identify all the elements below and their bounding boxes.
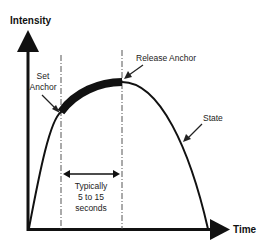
anchoring-intensity-diagram: Intensity Time Set Anchor Release Anchor… bbox=[0, 0, 263, 249]
duration-label-line1: Typically bbox=[75, 181, 108, 191]
set-anchor-annotation: Set Anchor bbox=[30, 71, 60, 113]
set-anchor-label-line1: Set bbox=[37, 71, 50, 81]
state-label: State bbox=[203, 113, 223, 123]
duration-annotation: Typically 5 to 15 seconds bbox=[63, 170, 120, 213]
set-anchor-pointer bbox=[42, 95, 56, 109]
set-anchor-label-line2: Anchor bbox=[30, 82, 57, 92]
y-axis: Intensity bbox=[10, 15, 52, 231]
x-axis-arrowhead-icon bbox=[210, 219, 230, 240]
state-curve bbox=[29, 82, 208, 229]
duration-label-line2: 5 to 15 bbox=[78, 192, 104, 202]
duration-right-arrowhead-icon bbox=[113, 170, 120, 178]
y-axis-label: Intensity bbox=[10, 15, 52, 26]
release-anchor-annotation: Release Anchor bbox=[124, 53, 196, 79]
state-annotation: State bbox=[183, 113, 223, 142]
release-anchor-arrowhead-icon bbox=[124, 71, 132, 79]
state-pointer bbox=[188, 124, 202, 138]
duration-label-line3: seconds bbox=[75, 203, 107, 213]
y-axis-arrowhead-icon bbox=[17, 30, 39, 52]
anchored-segment bbox=[61, 82, 122, 112]
release-anchor-pointer bbox=[129, 65, 143, 75]
duration-left-arrowhead-icon bbox=[63, 170, 70, 178]
state-arrowhead-icon bbox=[183, 134, 191, 142]
release-anchor-label: Release Anchor bbox=[136, 53, 196, 63]
x-axis-label: Time bbox=[233, 224, 257, 235]
